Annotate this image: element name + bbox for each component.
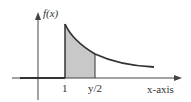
x-axis-arrow-icon (174, 75, 182, 81)
tick-label-y-half: y/2 (88, 82, 102, 94)
tick-label-1: 1 (62, 82, 68, 94)
x-axis-label: x-axis (147, 83, 174, 95)
density-diagram: f(x) 1 y/2 x-axis (0, 0, 191, 102)
y-axis-label: f(x) (43, 7, 59, 20)
y-axis-arrow-icon (35, 12, 41, 20)
